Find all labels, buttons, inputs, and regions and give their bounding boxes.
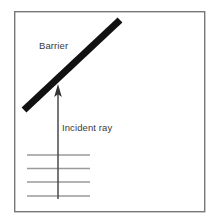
barrier-label: Barrier bbox=[39, 40, 68, 51]
figure-root: Barrier Incident ray bbox=[0, 0, 218, 219]
incident-ray-label: Incident ray bbox=[62, 122, 112, 133]
reflection-diagram: Barrier Incident ray bbox=[0, 0, 218, 219]
